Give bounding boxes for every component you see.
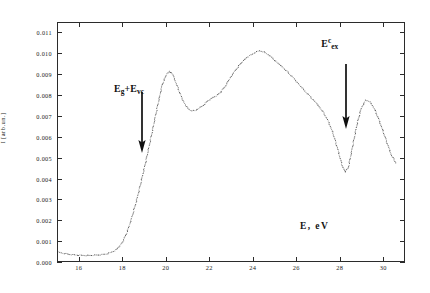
annotation-e-ex-c-label: Ecex xyxy=(321,38,338,50)
x-axis-tick xyxy=(79,257,80,262)
x-axis-tick-label: 22 xyxy=(196,264,222,271)
x-axis-tick-label: 26 xyxy=(283,264,309,271)
down-arrow-icon xyxy=(340,64,352,130)
y-axis-tick-label: 0.005 xyxy=(6,154,52,161)
y-axis-tick xyxy=(57,95,62,96)
plot-canvas xyxy=(58,23,404,261)
y-axis-tick-label: 0.002 xyxy=(6,217,52,224)
x-axis-tick xyxy=(166,257,167,262)
y-axis-tick xyxy=(400,241,405,242)
y-axis-tick xyxy=(400,158,405,159)
x-axis-tick-label: 16 xyxy=(66,264,92,271)
annotation-eg-evc: Eg+Evc xyxy=(114,78,144,96)
y-axis-tick xyxy=(57,220,62,221)
y-axis-tick xyxy=(57,116,62,117)
y-axis-tick-label: 0.010 xyxy=(6,50,52,57)
y-axis-tick xyxy=(400,53,405,54)
x-axis-tick xyxy=(383,22,384,27)
x-axis-tick xyxy=(209,257,210,262)
x-axis-tick xyxy=(79,22,80,27)
y-axis-tick-label: 0.006 xyxy=(6,133,52,140)
y-axis-tick-label: 0.008 xyxy=(6,92,52,99)
y-axis-tick xyxy=(57,199,62,200)
x-axis-tick-label: 20 xyxy=(153,264,179,271)
x-axis-tick xyxy=(340,257,341,262)
x-axis-tick xyxy=(253,22,254,27)
x-axis-tick xyxy=(296,257,297,262)
plot-frame xyxy=(57,22,405,262)
x-axis-tick xyxy=(383,257,384,262)
y-axis-tick xyxy=(400,179,405,180)
y-axis-tick xyxy=(400,220,405,221)
x-axis-tick-label: 18 xyxy=(109,264,135,271)
y-axis-tick xyxy=(57,158,62,159)
y-axis-tick xyxy=(57,53,62,54)
y-axis-tick xyxy=(57,241,62,242)
x-axis-tick xyxy=(166,22,167,27)
y-axis-tick-label: 0.003 xyxy=(6,196,52,203)
y-axis-tick xyxy=(57,179,62,180)
x-axis-tick xyxy=(122,257,123,262)
x-axis-tick xyxy=(209,22,210,27)
x-axis-tick xyxy=(253,257,254,262)
y-axis-tick xyxy=(400,262,405,263)
y-axis-tick xyxy=(57,137,62,138)
y-axis-tick-label: 0.004 xyxy=(6,175,52,182)
y-axis-tick xyxy=(400,74,405,75)
y-axis-tick xyxy=(400,199,405,200)
y-axis-tick xyxy=(400,116,405,117)
x-axis-tick xyxy=(340,22,341,27)
annotation-e-ex-c: Ecex xyxy=(321,38,338,50)
y-axis-tick xyxy=(400,95,405,96)
figure-root: 0.0000.0010.0020.0030.0040.0050.0060.007… xyxy=(0,0,430,293)
y-axis-tick-label: 0.001 xyxy=(6,238,52,245)
x-axis-title: E, eV xyxy=(300,221,329,231)
x-axis-tick-label: 30 xyxy=(370,264,396,271)
y-axis-tick-label: 0.011 xyxy=(6,29,52,36)
down-arrow-icon xyxy=(136,92,148,154)
y-axis-tick xyxy=(57,32,62,33)
y-axis-tick xyxy=(400,137,405,138)
y-axis-title: I [arb.un.] xyxy=(0,112,6,143)
y-axis-tick-label: 0.007 xyxy=(6,112,52,119)
y-axis-tick xyxy=(400,32,405,33)
x-axis-tick-label: 24 xyxy=(240,264,266,271)
y-axis-tick-label: 0.009 xyxy=(6,71,52,78)
x-axis-tick-label: 28 xyxy=(327,264,353,271)
y-axis-tick-label: 0.000 xyxy=(6,259,52,266)
y-axis-tick xyxy=(57,262,62,263)
x-axis-tick xyxy=(122,22,123,27)
x-axis-tick xyxy=(296,22,297,27)
y-axis-tick xyxy=(57,74,62,75)
